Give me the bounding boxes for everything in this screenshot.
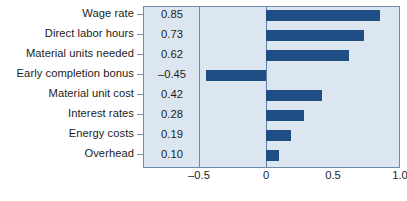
category-label-row: Material units needed bbox=[0, 44, 136, 64]
category-label-row: Energy costs bbox=[0, 124, 136, 144]
category-label: Material unit cost bbox=[49, 88, 136, 99]
category-tick-mark bbox=[137, 114, 143, 115]
value-text: 0.28 bbox=[161, 109, 183, 120]
category-tick-mark bbox=[137, 14, 143, 15]
category-tick-mark bbox=[137, 34, 143, 35]
bar bbox=[266, 10, 380, 21]
category-label: Early completion bonus bbox=[17, 68, 136, 79]
value-cell: 0.62 bbox=[144, 45, 200, 65]
plot-area bbox=[201, 7, 399, 167]
value-text: 0.85 bbox=[161, 9, 183, 20]
value-cell: 0.10 bbox=[144, 145, 200, 165]
category-label: Direct labor hours bbox=[45, 28, 136, 39]
value-text: 0.10 bbox=[161, 149, 183, 160]
category-tick-mark bbox=[137, 134, 143, 135]
x-tick-label: 0.5 bbox=[325, 170, 341, 181]
category-tick-mark bbox=[137, 54, 143, 55]
category-label-column: Wage rateDirect labor hoursMaterial unit… bbox=[0, 0, 136, 168]
x-tick-label: 0 bbox=[263, 170, 269, 181]
sensitivity-tornado-chart: Wage rateDirect labor hoursMaterial unit… bbox=[0, 0, 407, 201]
value-cell: –0.45 bbox=[144, 65, 200, 85]
category-label-row: Overhead bbox=[0, 144, 136, 164]
category-label-row: Early completion bonus bbox=[0, 64, 136, 84]
value-text: 0.42 bbox=[161, 89, 183, 100]
bar bbox=[266, 130, 291, 141]
x-tick-label: 1.0 bbox=[392, 170, 407, 181]
category-label: Interest rates bbox=[68, 108, 136, 119]
category-label: Wage rate bbox=[82, 8, 136, 19]
x-tick-label: –0.5 bbox=[188, 170, 210, 181]
bar bbox=[266, 30, 364, 41]
bar bbox=[266, 150, 279, 161]
category-tick-mark bbox=[137, 154, 143, 155]
value-text: 0.73 bbox=[161, 29, 183, 40]
bar bbox=[266, 50, 349, 61]
value-cell: 0.28 bbox=[144, 105, 200, 125]
category-label: Overhead bbox=[84, 148, 136, 159]
category-label-row: Direct labor hours bbox=[0, 24, 136, 44]
chart-panel: 0.850.730.62–0.450.420.280.190.10 bbox=[143, 6, 400, 168]
value-cell: 0.42 bbox=[144, 85, 200, 105]
category-label: Material units needed bbox=[26, 48, 136, 59]
bar bbox=[206, 70, 266, 81]
category-label-row: Wage rate bbox=[0, 4, 136, 24]
bar bbox=[266, 110, 304, 121]
category-label-row: Interest rates bbox=[0, 104, 136, 124]
value-text: 0.62 bbox=[161, 49, 183, 60]
value-cell: 0.73 bbox=[144, 25, 200, 45]
category-label-row: Material unit cost bbox=[0, 84, 136, 104]
bar bbox=[266, 90, 322, 101]
value-column: 0.850.730.62–0.450.420.280.190.10 bbox=[144, 7, 200, 167]
value-text: 0.19 bbox=[161, 129, 183, 140]
value-cell: 0.19 bbox=[144, 125, 200, 145]
x-axis-tick-labels: –0.500.51.0 bbox=[0, 170, 407, 190]
category-label: Energy costs bbox=[69, 128, 136, 139]
value-text: –0.45 bbox=[158, 69, 186, 80]
value-cell: 0.85 bbox=[144, 5, 200, 25]
category-tick-mark bbox=[137, 94, 143, 95]
category-tick-mark bbox=[137, 74, 143, 75]
